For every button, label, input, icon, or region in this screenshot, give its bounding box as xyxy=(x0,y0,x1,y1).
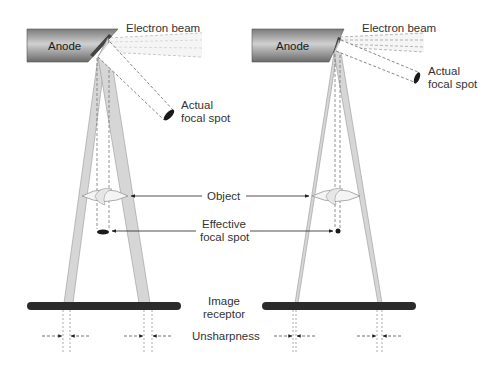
effective-focal-spot-left xyxy=(97,230,109,235)
focal-spot-diagram: Anode xyxy=(0,0,481,369)
effective-focal-spot-right xyxy=(336,229,341,234)
left-panel: Anode xyxy=(27,22,231,352)
anode-label-left: Anode xyxy=(48,40,81,52)
actual-focal-spot-label-right-2: focal spot xyxy=(428,78,478,90)
image-receptor-label-2: receptor xyxy=(203,308,245,320)
center-labels: Object Effective focal spot Image recept… xyxy=(112,190,333,342)
actual-focal-spot-label-right-1: Actual xyxy=(428,65,460,77)
image-receptor-left xyxy=(27,302,181,310)
object-label: Object xyxy=(207,190,241,202)
anode-label-right: Anode xyxy=(276,40,309,52)
actual-focal-spot-label-left-1: Actual xyxy=(181,99,213,111)
image-receptor-label-1: Image xyxy=(208,295,240,307)
electron-beam-label-left: Electron beam xyxy=(126,22,200,34)
electron-beam-label-right: Electron beam xyxy=(362,22,436,34)
actual-focal-spot-label-left-2: focal spot xyxy=(181,112,231,124)
effective-focal-spot-label-2: focal spot xyxy=(200,231,250,243)
effective-focal-spot-label-1: Effective xyxy=(202,218,246,230)
image-receptor-right xyxy=(262,302,416,310)
object-right xyxy=(312,188,360,205)
right-panel: Anode xyxy=(252,22,478,352)
unsharpness-label: Unsharpness xyxy=(192,330,260,342)
